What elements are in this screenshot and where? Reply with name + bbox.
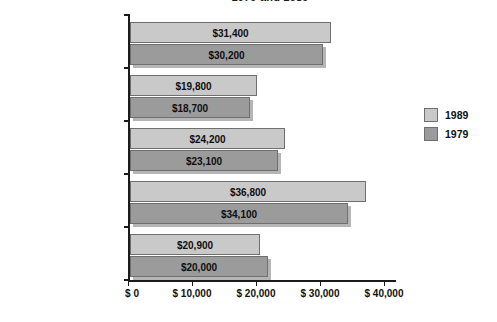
bar-value-label: $20,000	[131, 261, 267, 272]
x-axis-line	[128, 280, 396, 282]
bar-value-label: $36,800	[131, 186, 365, 197]
bar-1979[interactable]: $30,200	[130, 44, 323, 65]
bar-value-label: $20,900	[131, 239, 259, 250]
bar-1989[interactable]: $19,800	[130, 75, 257, 96]
x-axis-label-20000: $ 20,000	[237, 288, 276, 299]
bar-1979[interactable]: $34,100	[130, 203, 348, 224]
legend-label: 1979	[445, 128, 468, 140]
y-axis-tick	[124, 120, 129, 122]
y-axis-tick	[124, 14, 129, 16]
x-axis-label-0: $ 0	[125, 288, 139, 299]
chart-legend: 1989 1979	[424, 108, 468, 146]
legend-item-1989[interactable]: 1989	[424, 108, 468, 122]
legend-swatch-icon	[424, 127, 438, 141]
legend-label: 1989	[445, 109, 468, 121]
bar-value-label: $19,800	[131, 80, 256, 91]
chart-title: 1979 and 1989	[130, 0, 410, 3]
bar-value-label: $18,700	[131, 102, 249, 113]
bar-1979[interactable]: $20,000	[130, 256, 268, 277]
bar-value-label: $24,200	[131, 133, 284, 144]
x-axis-label-30000: $ 30,000	[301, 288, 340, 299]
bar-value-label: $23,100	[131, 155, 277, 166]
legend-item-1979[interactable]: 1979	[424, 127, 468, 141]
x-axis-tick	[384, 280, 385, 286]
bar-1989[interactable]: $20,900	[130, 234, 260, 255]
legend-swatch-icon	[424, 108, 438, 122]
plot-area: $31,400 $30,200 $19,800 $18,700 $24,200 …	[128, 14, 396, 282]
y-axis-tick	[124, 173, 129, 175]
bar-1979[interactable]: $18,700	[130, 97, 250, 118]
y-axis-tick	[124, 226, 129, 228]
bar-1989[interactable]: $24,200	[130, 128, 285, 149]
bar-1989[interactable]: $36,800	[130, 181, 366, 202]
x-axis-label-10000: $ 10,000	[173, 288, 212, 299]
bar-1989[interactable]: $31,400	[130, 22, 331, 43]
x-axis-tick	[128, 280, 129, 286]
bar-value-label: $30,200	[131, 49, 322, 60]
bar-value-label: $31,400	[131, 27, 330, 38]
bar-1979[interactable]: $23,100	[130, 150, 278, 171]
bar-chart: 1979 and 1989 Non-Hispanic white African…	[0, 0, 497, 322]
x-axis-label-40000: $ 40,000	[365, 288, 404, 299]
x-axis-tick	[256, 280, 257, 286]
bar-value-label: $34,100	[131, 208, 347, 219]
x-axis-tick	[320, 280, 321, 286]
y-axis-tick	[124, 67, 129, 69]
x-axis-tick	[192, 280, 193, 286]
